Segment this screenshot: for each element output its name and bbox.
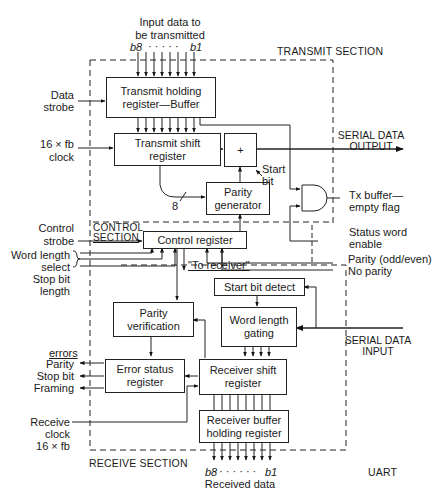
start-bit-label-1: Start: [262, 163, 285, 175]
receive-section-label: RECEIVE SECTION: [89, 457, 188, 469]
bus-width-label: 8: [172, 200, 178, 212]
received-data-label: Received data: [195, 478, 285, 490]
no-parity-label: No parity: [348, 265, 392, 277]
receiver-shift-register: Receiver shift register: [199, 359, 287, 395]
error-stop-bit-label: Stop bit: [10, 370, 74, 382]
serial-input-label-2: INPUT: [340, 345, 416, 357]
input-lsb: b1: [190, 41, 202, 53]
serial-output-label-2: OUTPUT: [333, 140, 409, 152]
status-word-enable-label-1: Status word: [349, 226, 407, 238]
to-receiver-label: "To receiver": [188, 259, 250, 271]
control-register: Control register: [143, 231, 247, 249]
error-framing-label: Framing: [10, 382, 74, 394]
tx-flag-label-2: empty flag: [349, 201, 400, 213]
parity-odd-even-label: Parity (odd/even): [348, 253, 432, 265]
stop-bit-length-label-2: length: [0, 285, 70, 297]
tx-clock-label-1: 16 × fb: [20, 138, 74, 150]
parity-generator: Parity generator: [206, 182, 270, 215]
word-length-gating: Word length gating: [221, 307, 297, 347]
rx-clock-label-3: 16 × fb: [10, 440, 70, 452]
start-bit-detect: Start bit detect: [214, 278, 305, 296]
input-msb: b8: [130, 41, 142, 53]
uart-block-diagram: Input data to be transmitted b8 · · · · …: [0, 0, 442, 502]
tx-flag-label-1: Tx buffer—: [349, 189, 403, 201]
word-length-label-2: select: [0, 261, 70, 273]
control-strobe-label-2: strobe: [10, 235, 74, 247]
error-status-register: Error status register: [105, 359, 185, 393]
data-strobe-label-1: Data: [20, 89, 74, 101]
control-section-label-2: SECTION: [93, 233, 139, 243]
word-length-label-1: Word length: [0, 249, 70, 261]
transmit-section-label: TRANSMIT SECTION: [277, 45, 383, 57]
uart-label: UART: [368, 466, 397, 478]
output-lsb: b1: [265, 466, 277, 478]
output-dots: · · · · · ·: [219, 465, 256, 477]
tx-clock-label-2: clock: [20, 151, 74, 163]
data-strobe-label-2: strobe: [20, 101, 74, 113]
transmit-holding-register: Transmit holding register—Buffer: [106, 77, 216, 118]
input-dots: · · · · ·: [148, 40, 179, 52]
transmit-shift-register: Transmit shift register: [114, 133, 221, 166]
input-data-title-1: Input data to: [120, 16, 220, 28]
error-parity-label: Parity: [10, 358, 74, 370]
start-bit-label-2: bit: [262, 175, 274, 187]
stop-bit-length-label-1: Stop bit: [0, 273, 70, 285]
control-strobe-label-1: Control: [10, 222, 74, 234]
rx-clock-label-1: Receive: [10, 416, 70, 428]
receiver-buffer-register: Receiver buffer holding register: [199, 410, 289, 443]
parity-verification: Parity verification: [113, 302, 194, 337]
status-word-enable-label-2: enable: [349, 238, 382, 250]
output-msb: b8: [205, 466, 217, 478]
adder-block: +: [224, 133, 257, 167]
rx-clock-label-2: clock: [10, 428, 70, 440]
